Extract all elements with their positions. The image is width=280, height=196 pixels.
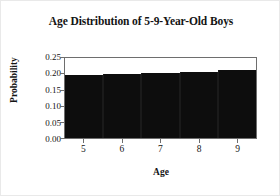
- y-tick-label: 0.10: [35, 101, 61, 111]
- x-tick-mark: [199, 139, 200, 143]
- y-axis-tick-labels: 0.25 0.20 0.15 0.10 0.05 0.00: [31, 57, 61, 139]
- chart-figure: Age Distribution of 5-9-Year-Old Boys Pr…: [0, 0, 280, 196]
- x-tick-mark: [83, 139, 84, 143]
- y-tick-label: 0.00: [35, 134, 61, 144]
- x-axis-label: Age: [64, 167, 258, 177]
- plot-area: [64, 57, 257, 139]
- y-tick-label: 0.20: [35, 68, 61, 78]
- x-tick-label: 6: [103, 144, 142, 160]
- y-axis-label: Probability: [9, 45, 19, 115]
- y-tick-label: 0.05: [35, 118, 61, 128]
- chart-title: Age Distribution of 5-9-Year-Old Boys: [1, 15, 280, 27]
- bar-age-9: [218, 70, 256, 138]
- y-tick-label: 0.25: [35, 52, 61, 62]
- bar-age-7: [141, 73, 180, 138]
- x-axis-tick-labels: 5 6 7 8 9: [64, 144, 257, 160]
- x-tick-mark: [160, 139, 161, 143]
- x-tick-label: 7: [141, 144, 180, 160]
- y-tick-label: 0.15: [35, 85, 61, 95]
- x-tick-mark: [237, 139, 238, 143]
- x-tick-label: 9: [218, 144, 257, 160]
- bar-age-5: [65, 75, 103, 138]
- x-tick-label: 5: [64, 144, 103, 160]
- x-tick-label: 8: [180, 144, 219, 160]
- x-tick-mark: [122, 139, 123, 143]
- bar-age-8: [180, 72, 219, 138]
- bar-age-6: [103, 74, 142, 138]
- bar-series: [65, 58, 256, 138]
